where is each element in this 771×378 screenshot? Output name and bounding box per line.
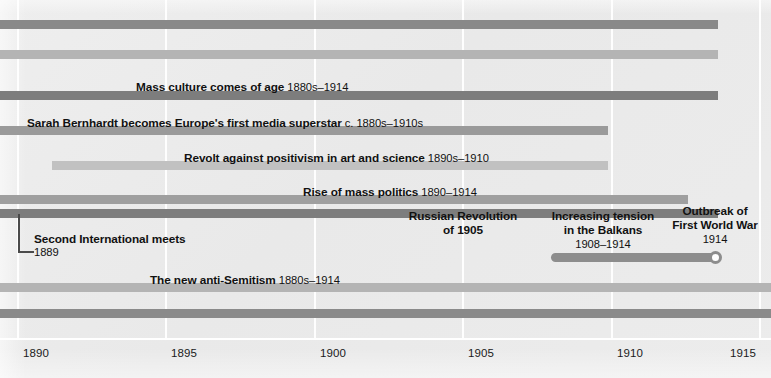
event-label-outbreak-wwi: Outbreak of First World War 1914 [659,204,771,246]
event-dates-balkans-tension: 1908–1914 [543,238,663,252]
event-dates-second-international: 1889 [34,246,185,260]
plot-area: Mass culture comes of age1880s–1914 Sara… [0,0,771,378]
timeline-bar-balkans-tension [551,253,717,262]
timeline-bar-mass-culture [0,91,718,100]
timeline-bar-top-2 [0,50,718,59]
event-label-sarah-bernhardt: Sarah Bernhardt becomes Europe's first m… [27,112,423,132]
timeline-bar-top-1 [0,20,718,29]
axis-tick-1890: 1890 [23,347,49,359]
event-title-revolt-positivism: Revolt against positivism in art and sci… [184,151,425,165]
event-subtitle-russian-revolution: of 1905 [402,223,524,237]
event-title-second-international: Second International meets [34,232,185,246]
event-label-russian-revolution: Russian Revolution of 1905 [402,209,524,238]
event-dates-revolt-positivism: 1890s–1910 [428,152,489,164]
timeline-bar-bottom [0,309,771,318]
event-label-balkans-tension: Increasing tension in the Balkans 1908–1… [543,209,663,251]
timeline-bar-new-antisemitism [0,283,771,292]
event-dates-mass-culture: 1880s–1914 [287,81,348,93]
event-title-russian-revolution: Russian Revolution [402,209,524,223]
event-label-new-antisemitism: The new anti-Semitism1880s–1914 [150,269,340,289]
event-label-rise-mass-politics: Rise of mass politics1890–1914 [303,181,477,201]
event-dates-rise-mass-politics: 1890–1914 [421,186,477,198]
event-dates-sarah-bernhardt: c. 1880s–1910s [345,117,423,129]
leader-line-vertical-second-international [18,214,20,253]
leader-line-horizontal-second-international [18,251,34,253]
axis-tick-1900: 1900 [320,347,346,359]
event-title-balkans-tension: Increasing tension [543,209,663,223]
axis-tick-1895: 1895 [171,347,197,359]
event-title2-balkans-tension: in the Balkans [543,223,663,237]
event-title-new-antisemitism: The new anti-Semitism [150,273,276,287]
timeline-chart: Mass culture comes of age1880s–1914 Sara… [0,0,771,378]
axis-tick-1915: 1915 [730,347,756,359]
event-dates-outbreak-wwi: 1914 [659,233,771,247]
endcap-outbreak-wwi [709,251,722,264]
axis-tick-1905: 1905 [468,347,494,359]
axis-baseline [0,338,771,340]
event-label-mass-culture: Mass culture comes of age1880s–1914 [136,76,348,96]
event-dates-new-antisemitism: 1880s–1914 [279,274,340,286]
event-title-outbreak-wwi: Outbreak of [659,204,771,218]
event-title-sarah-bernhardt: Sarah Bernhardt becomes Europe's first m… [27,116,342,130]
event-title-mass-culture: Mass culture comes of age [136,80,284,94]
event-label-second-international: Second International meets 1889 [34,232,185,260]
event-title-rise-mass-politics: Rise of mass politics [303,185,418,199]
event-title2-outbreak-wwi: First World War [659,218,771,232]
event-label-revolt-positivism: Revolt against positivism in art and sci… [184,147,489,167]
axis-tick-1910: 1910 [617,347,643,359]
